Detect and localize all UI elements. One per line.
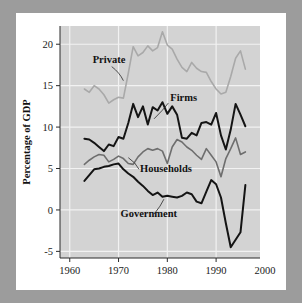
x-tick-label: 1960 bbox=[59, 265, 80, 276]
y-tick-label: 15 bbox=[43, 80, 54, 91]
line-chart: 20151050-519601970198019902000Percentage… bbox=[16, 13, 286, 290]
y-tick-label: 20 bbox=[43, 39, 54, 50]
y-tick-label: 5 bbox=[48, 163, 53, 174]
x-tick-label: 1970 bbox=[108, 265, 129, 276]
y-axis-ticks: 20151050-5 bbox=[43, 39, 61, 257]
x-tick-label: 1980 bbox=[157, 265, 178, 276]
y-axis-label: Percentage of GDP bbox=[21, 99, 32, 185]
series-label-households: Households bbox=[140, 163, 192, 174]
y-tick-label: 10 bbox=[43, 122, 54, 133]
series-label-firms: Firms bbox=[170, 92, 197, 103]
x-axis-ticks: 19601970198019902000 bbox=[59, 258, 275, 276]
plot-area bbox=[60, 26, 260, 258]
series-label-government: Government bbox=[120, 208, 177, 219]
x-tick-label: 2000 bbox=[254, 265, 275, 276]
figure-panel: 20151050-519601970198019902000Percentage… bbox=[16, 13, 286, 290]
x-tick-label: 1990 bbox=[206, 265, 227, 276]
series-label-private: Private bbox=[93, 54, 126, 65]
y-tick-label: -5 bbox=[44, 246, 53, 257]
y-tick-label: 0 bbox=[48, 205, 53, 216]
chart-canvas: 20151050-519601970198019902000Percentage… bbox=[16, 13, 286, 290]
